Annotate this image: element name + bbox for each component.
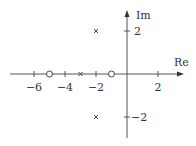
im-axis-label: Im (136, 9, 151, 22)
pole-x-icon (94, 115, 98, 119)
re-axis-label: Re (174, 56, 189, 69)
x-tick-label: −2 (88, 81, 104, 94)
x-tick-label: −4 (57, 81, 73, 94)
real-axis-arrow-icon (177, 72, 184, 77)
pole-x-icon (94, 29, 98, 33)
zero-circle-icon (47, 71, 53, 77)
y-tick-label: −2 (131, 111, 147, 124)
pole-zero-plot: −6 −4 −2 2 2 −2 Im Re (0, 0, 196, 146)
imaginary-axis-arrow-icon (125, 10, 130, 17)
y-tick-label: 2 (134, 25, 141, 38)
x-tick-label: 2 (155, 81, 162, 94)
x-tick-label: −6 (26, 81, 42, 94)
zero-circle-icon (109, 71, 115, 77)
